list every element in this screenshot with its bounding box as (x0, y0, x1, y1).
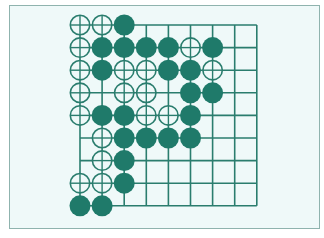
black-stone (114, 173, 135, 194)
white-stone (159, 106, 178, 125)
white-stone (92, 128, 111, 147)
black-stone (114, 150, 135, 171)
black-stone (180, 60, 201, 81)
black-stone (92, 60, 113, 81)
black-stone (136, 128, 157, 149)
black-stone (158, 128, 179, 149)
white-stone (70, 83, 89, 102)
black-stone (70, 195, 91, 216)
white-stone (70, 174, 89, 193)
white-stone (137, 106, 156, 125)
white-stone (181, 38, 200, 57)
white-stone (115, 83, 134, 102)
black-stone (92, 195, 113, 216)
black-stone (180, 128, 201, 149)
white-stone (92, 151, 111, 170)
white-stone (70, 15, 89, 34)
white-stone (92, 174, 111, 193)
black-stone (92, 105, 113, 126)
black-stone (114, 128, 135, 149)
white-stone (137, 60, 156, 79)
black-stone (202, 37, 223, 58)
go-board (0, 0, 324, 238)
black-stone (136, 37, 157, 58)
black-stone (180, 82, 201, 103)
black-stone (180, 105, 201, 126)
white-stone (203, 60, 222, 79)
black-stone (114, 15, 135, 36)
black-stone (202, 82, 223, 103)
white-stone (70, 38, 89, 57)
black-stone (114, 37, 135, 58)
white-stone (115, 60, 134, 79)
white-stone (70, 106, 89, 125)
white-stone (70, 60, 89, 79)
black-stone (92, 37, 113, 58)
black-stone (114, 105, 135, 126)
black-stone (158, 37, 179, 58)
white-stone (137, 83, 156, 102)
white-stone (92, 15, 111, 34)
black-stone (158, 60, 179, 81)
